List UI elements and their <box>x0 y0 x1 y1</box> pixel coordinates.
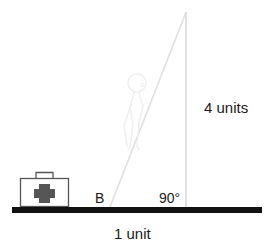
first-aid-kit-handle <box>36 173 53 179</box>
horizontal-side-label: 1 unit <box>114 226 151 241</box>
ground-line <box>12 207 262 213</box>
geometry-drawing <box>0 0 273 252</box>
right-angle-label: 90° <box>159 191 180 205</box>
base-point-label: B <box>95 191 104 205</box>
diagram-canvas: 4 units 1 unit 90° B <box>0 0 273 252</box>
person-figure <box>124 74 146 150</box>
vertical-side-label: 4 units <box>204 100 248 115</box>
hypotenuse-line <box>110 12 186 207</box>
